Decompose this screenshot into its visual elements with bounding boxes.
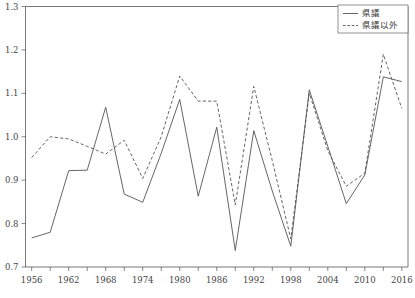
legend-label[interactable]: 県議以外 bbox=[362, 20, 398, 30]
x-tick-label: 1956 bbox=[21, 275, 43, 285]
x-tick-label: 1998 bbox=[280, 275, 302, 285]
x-tick-label: 2016 bbox=[391, 275, 413, 285]
legend-label[interactable]: 県議 bbox=[362, 8, 380, 18]
y-tick-label: 0.9 bbox=[5, 175, 19, 185]
chart-container: 0.70.80.91.01.11.21.3 195619621968197419… bbox=[0, 0, 415, 298]
line-chart: 0.70.80.91.01.11.21.3 195619621968197419… bbox=[0, 0, 415, 298]
y-tick-label: 0.7 bbox=[5, 262, 19, 272]
x-tick-label: 1986 bbox=[206, 275, 228, 285]
y-tick-label: 0.8 bbox=[5, 219, 19, 229]
y-tick-label: 1.2 bbox=[5, 45, 19, 55]
x-tick-label: 1980 bbox=[169, 275, 191, 285]
y-tick-label: 1.3 bbox=[5, 2, 19, 12]
chart-background bbox=[0, 0, 415, 298]
x-tick-label: 2004 bbox=[317, 275, 339, 285]
x-tick-label: 1974 bbox=[132, 275, 154, 285]
chart-legend[interactable]: 県議県議以外 bbox=[338, 5, 408, 33]
x-tick-label: 1992 bbox=[243, 275, 265, 285]
x-tick-label: 1968 bbox=[95, 275, 117, 285]
x-tick-label: 1962 bbox=[58, 275, 80, 285]
y-tick-label: 1.0 bbox=[5, 132, 19, 142]
x-tick-label: 2010 bbox=[354, 275, 376, 285]
y-tick-label: 1.1 bbox=[5, 88, 19, 98]
